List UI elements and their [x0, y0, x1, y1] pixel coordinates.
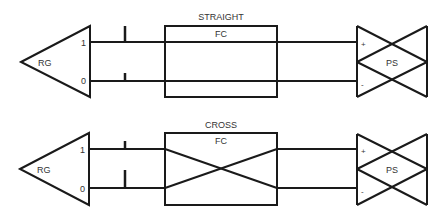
polarity-plus: +	[361, 147, 366, 156]
polarity-minus: -	[361, 187, 364, 196]
straight-diagram: RG 1 0 STRAIGHT FC PS + -	[21, 12, 427, 97]
diagram-title: STRAIGHT	[198, 12, 244, 22]
polarity-plus: +	[361, 40, 366, 49]
rg-triangle	[21, 26, 90, 97]
cross-diagram: RG 1 0 CROSS FC PS + -	[20, 120, 427, 205]
ps-label: PS	[386, 58, 398, 68]
rg-label: RG	[38, 58, 52, 68]
line-label-1: 1	[81, 38, 86, 48]
rg-triangle	[20, 133, 89, 205]
line-label-1: 1	[80, 145, 85, 155]
fc-label: FC	[215, 29, 227, 39]
diagram-title: CROSS	[205, 120, 237, 130]
ps-label: PS	[386, 165, 398, 175]
rg-label: RG	[37, 165, 51, 175]
wiring-diagram: RG 1 0 STRAIGHT FC PS + - RG 1 0	[0, 0, 446, 218]
line-label-0: 0	[80, 184, 85, 194]
line-label-0: 0	[81, 76, 86, 86]
fc-label: FC	[215, 136, 227, 146]
polarity-minus: -	[361, 80, 364, 89]
